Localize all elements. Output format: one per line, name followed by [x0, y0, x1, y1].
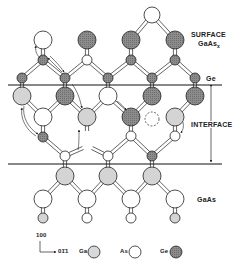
- atom-ga: [13, 87, 31, 105]
- annotation-layer: [22, 46, 211, 258]
- atom-ge: [122, 108, 140, 126]
- atom-ge: [17, 73, 27, 83]
- atom-ga: [38, 213, 48, 223]
- axis-011-label: 01̄1: [58, 248, 69, 254]
- surface-formula-text: GaAs: [198, 40, 217, 47]
- atom-ge: [147, 151, 157, 161]
- atom-as: [144, 7, 160, 23]
- atom-ge: [170, 55, 180, 65]
- atom-as: [99, 87, 117, 105]
- atom-as: [34, 31, 52, 49]
- legend-ge-label: Ge: [160, 248, 168, 254]
- atom-layer: [13, 7, 204, 223]
- legend-as-swatch: [129, 246, 141, 258]
- axis-100-label: 100: [36, 232, 47, 238]
- atom-ga: [170, 213, 180, 223]
- interface-label: INTERFACE: [190, 121, 233, 128]
- atom-ge: [143, 87, 161, 105]
- atom-ge: [186, 87, 204, 105]
- atom-ge: [38, 55, 48, 65]
- atom-ga: [78, 108, 96, 126]
- atom-ga: [143, 167, 161, 185]
- surface-label: SURFACE: [191, 31, 226, 38]
- atom-as: [126, 131, 136, 141]
- surface-formula-label: GaAsx: [198, 40, 220, 49]
- atom-ga: [99, 167, 117, 185]
- atom-ge: [126, 55, 136, 65]
- atom-ge: [147, 73, 157, 83]
- atom-ge: [166, 31, 184, 49]
- atom-ge: [103, 73, 113, 83]
- atom-as: [170, 131, 180, 141]
- legend-ga-swatch: [88, 246, 100, 258]
- atom-as: [126, 213, 136, 223]
- atom-as: [34, 190, 52, 208]
- atom-as: [82, 213, 92, 223]
- substrate-label: GaAs: [197, 196, 216, 203]
- ge-layer-label: Ge: [206, 75, 216, 82]
- legend-ga-label: Ga: [79, 248, 87, 254]
- atom-ga: [166, 108, 184, 126]
- atom-as: [60, 151, 70, 161]
- legend-ge-swatch: [170, 246, 182, 258]
- atom-ga: [56, 167, 74, 185]
- atom-as: [166, 190, 184, 208]
- atom-as: [103, 151, 113, 161]
- atom-ge: [60, 73, 70, 83]
- vacancy-site: [145, 112, 159, 126]
- atom-as: [122, 190, 140, 208]
- diffusion-arrow: [78, 130, 79, 150]
- surface-formula-subscript: x: [217, 43, 220, 49]
- atom-ge: [122, 31, 140, 49]
- atom-ge: [38, 132, 48, 142]
- atom-as: [82, 55, 92, 65]
- atom-as: [78, 190, 96, 208]
- atom-as: [34, 108, 52, 126]
- atom-ge: [78, 31, 96, 49]
- legend-as-label: As: [120, 248, 128, 254]
- atom-ge: [190, 73, 200, 83]
- diffusion-arrow: [48, 58, 62, 72]
- atom-ge: [56, 87, 74, 105]
